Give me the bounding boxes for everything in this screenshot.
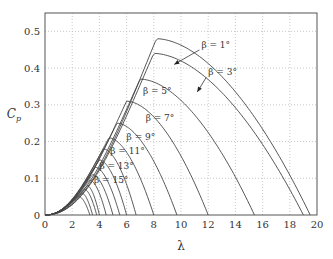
x-tick-label: 16 (256, 219, 269, 230)
curve-label: β = 7° (146, 113, 175, 123)
y-tick-label: 0.4 (24, 63, 40, 74)
x-tick-label: 14 (229, 219, 242, 230)
curve-label: β = 11° (110, 146, 144, 156)
y-tick-label: 0 (34, 210, 40, 221)
x-tick-label: 8 (151, 219, 157, 230)
x-tick-label: 0 (42, 219, 48, 230)
x-tick-label: 6 (123, 219, 129, 230)
x-tick-label: 4 (96, 219, 102, 230)
curve-label: β = 13° (99, 161, 133, 171)
y-tick-label: 0.2 (24, 136, 40, 147)
y-tick-label: 0.3 (24, 99, 40, 110)
x-tick-label: 12 (202, 219, 215, 230)
x-tick-label: 2 (69, 219, 75, 230)
y-axis-ticks: 00.10.20.30.40.5 (24, 26, 40, 221)
x-axis-ticks: 02468101214161820 (42, 219, 324, 230)
y-axis-label: Cp (7, 107, 21, 123)
cp-curves (45, 39, 310, 215)
curve-label: β = 3° (208, 67, 237, 77)
x-tick-label: 18 (283, 219, 296, 230)
x-axis-label: λ (177, 239, 185, 253)
y-tick-label: 0.5 (24, 26, 40, 37)
arrowhead-icon (197, 87, 201, 92)
curve-label: β = 15° (94, 175, 128, 185)
x-tick-label: 20 (311, 219, 324, 230)
curve-label: β = 9° (127, 132, 156, 142)
cp-lambda-chart: 02468101214161820 00.10.20.30.40.5 β = 1… (0, 0, 333, 259)
curve-annotations: β = 1°β = 3°β = 5°β = 7°β = 9°β = 11°β =… (94, 40, 237, 185)
curve-beta-29 (45, 197, 90, 215)
y-tick-label: 0.1 (24, 173, 40, 184)
x-tick-label: 10 (175, 219, 188, 230)
curve-label: β = 1° (201, 40, 230, 50)
curve-label: β = 5° (143, 86, 172, 96)
